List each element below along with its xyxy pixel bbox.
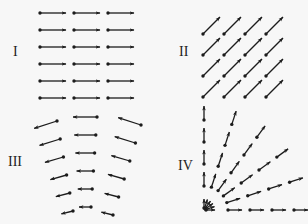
vector-arrow-tail-dot: [72, 28, 75, 31]
vector-arrow-shaft: [227, 198, 240, 202]
vector-arrow-tail-dot: [111, 213, 114, 216]
vector-arrow: [38, 62, 66, 65]
vector-arrow-tail-dot: [246, 194, 249, 197]
vector-arrow-tail-dot: [59, 137, 62, 140]
vector-arrow-shaft: [224, 80, 241, 97]
vector-arrow: [210, 174, 216, 189]
vector-arrow-tail-dot: [216, 189, 219, 192]
vector-arrow-shaft: [56, 193, 70, 197]
vector-arrow-tail-dot: [225, 201, 228, 204]
vector-arrow-shaft: [241, 175, 252, 183]
vector-arrow: [106, 79, 134, 82]
vector-arrow-tail-dot: [222, 53, 225, 56]
vector-arrow-tail-dot: [89, 205, 92, 208]
vector-arrow: [45, 155, 65, 162]
panel-label-IV: IV: [178, 159, 193, 173]
vector-arrow-tail-dot: [38, 11, 41, 14]
panel-III-field: [34, 115, 143, 216]
vector-arrow: [106, 45, 134, 48]
vector-arrow-shaft: [248, 191, 261, 195]
vector-arrow-tail-dot: [275, 155, 278, 158]
vector-arrow: [106, 96, 134, 99]
vector-arrow-tail-dot: [202, 140, 205, 143]
vector-arrow-tail-dot: [71, 209, 74, 212]
vector-arrow: [222, 80, 241, 99]
vector-arrow-tail-dot: [72, 96, 75, 99]
vector-arrow-tail-dot: [201, 32, 204, 35]
vector-arrow: [222, 38, 241, 57]
vector-arrow-tail-dot: [222, 95, 225, 98]
vector-arrow: [77, 169, 96, 172]
vector-arrow: [255, 126, 265, 139]
vector-arrow-tail-dot: [201, 53, 204, 56]
vector-arrow-tail-dot: [243, 95, 246, 98]
vector-arrow: [72, 11, 100, 14]
vector-arrow: [264, 38, 283, 57]
vector-arrow: [248, 208, 264, 211]
vector-arrow-shaft: [245, 59, 262, 76]
vector-arrow: [40, 137, 62, 145]
vector-arrow-tail-dot: [230, 123, 233, 126]
vector-arrow: [292, 208, 308, 211]
vector-arrow-tail-dot: [94, 133, 97, 136]
vector-arrow-tail-dot: [264, 32, 267, 35]
vector-arrow-tail-dot: [139, 123, 142, 126]
vector-arrow-tail-dot: [222, 194, 225, 197]
vector-arrow: [226, 208, 242, 211]
vector-arrow: [264, 80, 283, 99]
vector-arrow-tail-dot: [38, 28, 41, 31]
vector-arrow-shaft: [266, 59, 283, 76]
vector-arrow-tail-dot: [106, 96, 109, 99]
vector-arrow: [201, 59, 220, 78]
vector-arrow: [106, 28, 134, 31]
vector-arrow-tail-dot: [65, 173, 68, 176]
vector-arrow: [243, 59, 262, 78]
vector-arrow-shaft: [231, 161, 239, 172]
vector-arrow-shaft: [244, 144, 252, 155]
vector-arrow: [242, 144, 252, 157]
vector-arrow-tail-dot: [264, 53, 267, 56]
vector-arrow-tail-dot: [38, 79, 41, 82]
vector-arrow-shaft: [101, 212, 113, 215]
vector-arrow-tail-dot: [240, 181, 243, 184]
vector-arrow: [72, 62, 100, 65]
vector-arrow-tail-dot: [62, 155, 65, 158]
vector-arrow: [118, 118, 143, 127]
vector-arrow-tail-dot: [72, 62, 75, 65]
panel-label-I: I: [13, 45, 18, 59]
vector-arrow: [72, 45, 100, 48]
vector-arrow: [73, 115, 99, 118]
vector-arrow-shaft: [266, 17, 283, 34]
vector-arrow-tail-dot: [229, 171, 232, 174]
vector-arrow-tail-dot: [201, 95, 204, 98]
vector-arrow-tail-dot: [95, 115, 98, 118]
vector-arrow-shaft: [232, 111, 236, 124]
vector-arrow-tail-dot: [134, 141, 137, 144]
vector-arrow-tail-dot: [255, 135, 258, 138]
vector-arrow-tail-dot: [222, 32, 225, 35]
vector-arrow-tail-dot: [264, 74, 267, 77]
vector-arrow: [288, 178, 303, 184]
vector-arrow-tail-dot: [270, 208, 273, 211]
vector-arrow: [243, 80, 262, 99]
vector-arrow-tail-dot: [106, 11, 109, 14]
vector-arrow: [50, 173, 68, 179]
vector-arrow-tail-dot: [72, 79, 75, 82]
vector-arrow: [264, 17, 283, 36]
vector-arrow-tail-dot: [93, 151, 96, 154]
vector-arrow-shaft: [218, 179, 226, 190]
vector-arrow: [222, 17, 241, 36]
vector-arrow-shaft: [40, 139, 61, 145]
vector-arrow-tail-dot: [201, 74, 204, 77]
vector-arrow: [56, 191, 72, 196]
vector-arrow: [106, 11, 134, 14]
vector-arrow: [105, 193, 121, 198]
vector-arrow-shaft: [277, 149, 288, 157]
vector-arrow: [243, 17, 262, 36]
vector-arrow-shaft: [108, 174, 124, 179]
vector-arrow-tail-dot: [72, 45, 75, 48]
vector-arrow: [38, 79, 66, 82]
vector-arrow-tail-dot: [128, 159, 131, 162]
vector-arrow-tail-dot: [202, 184, 205, 187]
vector-arrow-shaft: [245, 80, 262, 97]
